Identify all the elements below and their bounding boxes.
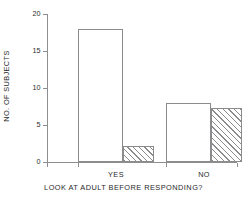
x-axis-title: LOOK AT ADULT BEFORE RESPONDING? bbox=[0, 183, 247, 192]
y-axis-tick: 5 bbox=[43, 125, 47, 126]
x-axis-tick bbox=[166, 163, 167, 167]
x-axis-tick bbox=[47, 163, 48, 167]
y-axis-tick: 15 bbox=[43, 51, 47, 52]
x-axis-category-label-no: NO bbox=[174, 170, 234, 179]
x-axis-category-label-yes: YES bbox=[86, 170, 146, 179]
bar-yes-hatched bbox=[123, 146, 154, 162]
bar-no-open bbox=[166, 103, 211, 162]
y-axis-tick: 20 bbox=[43, 14, 47, 15]
bar-yes-open bbox=[78, 29, 123, 162]
bar-chart-figure: NO. OF SUBJECTS 05101520 YESNO LOOK AT A… bbox=[0, 0, 247, 200]
x-axis-line bbox=[47, 162, 237, 163]
bar-no-hatched bbox=[211, 108, 242, 162]
y-axis-tick-label: 0 bbox=[37, 157, 41, 167]
y-axis-tick-label: 15 bbox=[33, 46, 41, 56]
x-axis-tick bbox=[237, 163, 238, 167]
y-axis-tick-label: 5 bbox=[37, 120, 41, 130]
x-axis-tick bbox=[78, 163, 79, 167]
y-axis-tick-label: 20 bbox=[33, 9, 41, 19]
y-axis-title: NO. OF SUBJECTS bbox=[0, 11, 14, 161]
y-axis-tick-label: 10 bbox=[33, 83, 41, 93]
plot-area: 05101520 bbox=[47, 14, 237, 162]
y-axis-line bbox=[47, 14, 48, 162]
y-axis-tick: 10 bbox=[43, 88, 47, 89]
